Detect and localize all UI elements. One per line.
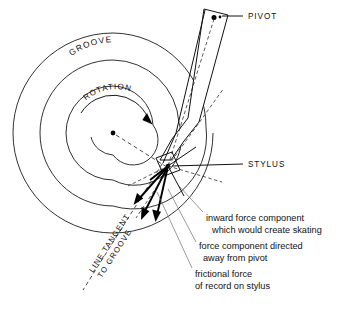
tonearm-outline xyxy=(160,9,228,160)
leader-frictional-force xyxy=(157,192,192,268)
annotation-leader-lines xyxy=(157,186,203,268)
pivot-label: PIVOT xyxy=(248,12,277,21)
leader-inward-force xyxy=(179,186,203,212)
groove-turn-inner xyxy=(91,125,158,165)
pivot-dot xyxy=(212,15,217,20)
tracking-force-diagram: GROOVE ROTATION PIVOT STYLUS LINE TANGEN… xyxy=(0,0,339,313)
annotation-frictional-force-line1: frictional force xyxy=(195,269,252,279)
figure-root: GROOVE ROTATION PIVOT STYLUS LINE TANGEN… xyxy=(0,0,339,313)
rotation-label-text: ROTATION xyxy=(82,82,133,102)
rotation-label: ROTATION xyxy=(82,82,133,102)
annotation-frictional-force-line2: of record on stylus xyxy=(195,281,270,291)
annotation-inward-force: inward force component which would creat… xyxy=(206,213,322,235)
annotation-away-from-pivot-line1: force component directed xyxy=(199,241,303,251)
construction-stroke-b xyxy=(168,166,184,196)
annotation-inward-force-line1: inward force component xyxy=(206,213,304,223)
annotation-inward-force-line2: which would create skating xyxy=(211,225,322,235)
leader-away-from-pivot xyxy=(168,189,196,242)
groove-label: GROOVE xyxy=(67,34,113,57)
annotation-away-from-pivot-line2: away from pivot xyxy=(203,253,268,263)
groove-label-text: GROOVE xyxy=(67,34,113,57)
dashed-right-lower xyxy=(168,166,222,182)
record-center-dot xyxy=(111,131,116,136)
rotation-arrow xyxy=(81,95,153,124)
pivot-dot-secondary xyxy=(219,16,222,19)
stylus-label: STYLUS xyxy=(248,160,285,169)
annotation-frictional-force: frictional force of record on stylus xyxy=(195,269,270,291)
annotation-away-from-pivot: force component directed away from pivot xyxy=(199,241,303,263)
tonearm xyxy=(160,9,228,166)
tangent-label-group: LINE TANGENT TO GROOVE xyxy=(87,212,140,279)
away-from-pivot-arrowhead xyxy=(152,209,161,222)
